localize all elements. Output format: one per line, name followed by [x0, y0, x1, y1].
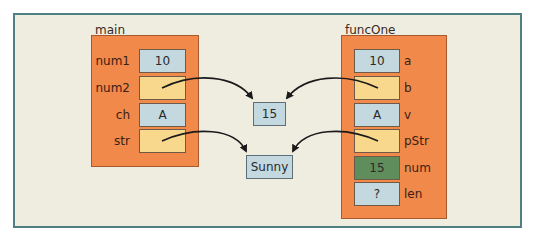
arrow-b-to-int — [287, 78, 378, 98]
arrow-str-to-string — [162, 131, 246, 151]
arrow-num2-to-int — [162, 78, 252, 98]
pointer-arrows — [0, 0, 538, 246]
arrow-pstr-to-string — [293, 131, 378, 151]
